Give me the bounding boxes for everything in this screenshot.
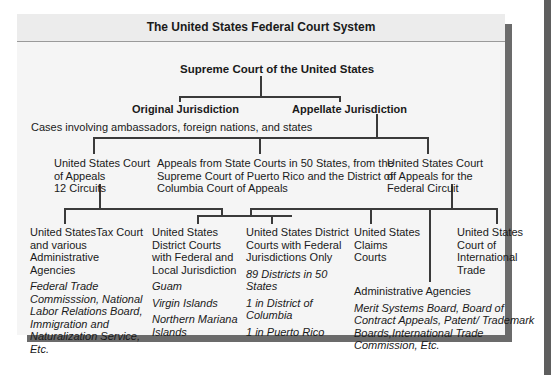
line: Local Jurisdiction [152, 264, 238, 277]
line: of Appeals [54, 170, 150, 183]
line: Agencies [30, 264, 143, 277]
line: Court of [457, 239, 523, 252]
line: 1 in Puerto Rico [246, 326, 349, 339]
line: Courts [354, 251, 420, 264]
line: Trade [457, 264, 523, 277]
connector-tax-court [64, 208, 66, 224]
connector-original [179, 96, 181, 102]
line: Commission, Etc. [354, 339, 534, 352]
line: Supreme Court of Puerto Rico and the Dis… [157, 170, 394, 183]
connector-federal-circuit [427, 137, 429, 154]
connector-appellate [339, 96, 341, 102]
line: Columbia Court of Appeals [157, 182, 394, 195]
connector-district-federal [271, 215, 273, 224]
connector-state [259, 137, 261, 154]
supreme-court-label: Supreme Court of the United States [180, 63, 374, 76]
tax-court-node: United StatesTax Court and various Admin… [30, 226, 143, 355]
line: Administrative [30, 251, 143, 264]
line: States [246, 280, 349, 293]
connector-fedcircuit-bar [250, 208, 498, 210]
administrative-agencies-node: Administrative Agencies Merit Systems Bo… [354, 285, 534, 352]
page-edge-strip [544, 0, 551, 375]
line: United States [457, 226, 523, 239]
international-trade-node: United States Court of International Tra… [457, 226, 523, 276]
line: Virgin Islands [152, 297, 238, 310]
line: District Courts [152, 239, 238, 252]
connector-circuit-bar [64, 208, 223, 210]
line: Merit Systems Board, Board of [354, 302, 534, 315]
line: 1 in District of [246, 297, 349, 310]
line: Appeals from State Courts in 50 States, … [157, 157, 394, 170]
connector-district-bar [197, 215, 292, 217]
connector-admin-agencies [429, 208, 431, 282]
line: United States Court [54, 157, 150, 170]
line: 89 Districts in 50 [246, 268, 349, 281]
line: United States Court [387, 157, 483, 170]
connector-appellate-down [376, 114, 378, 138]
line: of Appeals for the [387, 170, 483, 183]
line: and various [30, 239, 143, 252]
connector-circuit [93, 137, 95, 154]
line: Jurisdictions Only [246, 251, 349, 264]
original-jurisdiction-note: Cases involving ambassadors, foreign nat… [31, 121, 312, 134]
district-federal-only-node: United States District Courts with Feder… [246, 226, 349, 338]
line: Columbia [246, 309, 349, 322]
line: Administrative Agencies [354, 285, 534, 298]
line: Federal Trade [30, 280, 143, 293]
connector-jurisdiction-bar [179, 96, 341, 98]
connector-district-local [197, 215, 199, 224]
line: Federal Circuit [387, 182, 483, 195]
connector-supreme-down [260, 76, 262, 97]
line: Naturalization Service, [30, 330, 143, 343]
diagram-title: The United States Federal Court System [17, 20, 505, 34]
line: with Federal and [152, 251, 238, 264]
line: Immigration and [30, 318, 143, 331]
line: Northern Mariana [152, 313, 238, 326]
connector-claims [370, 208, 372, 224]
original-jurisdiction-label: Original Jurisdiction [132, 103, 239, 116]
line: Commisssion, National [30, 293, 143, 306]
connector-fed-to-district [250, 208, 252, 217]
diagram-header: The United States Federal Court System [17, 14, 505, 42]
line: Islands [152, 326, 238, 339]
line: United States [152, 226, 238, 239]
district-federal-local-node: United States District Courts with Feder… [152, 226, 238, 338]
claims-courts-node: United States Claims Courts [354, 226, 420, 264]
connector-appeals-bar [93, 137, 429, 139]
line: Boards,International Trade [354, 327, 534, 340]
line: Contract Appeals, Patent/ Trademark [354, 314, 534, 327]
circuit-court-node: United States Court of Appeals 12 Circui… [54, 157, 150, 195]
line: International [457, 251, 523, 264]
line: United States District [246, 226, 349, 239]
connector-intl-trade [496, 208, 498, 224]
line: Guam [152, 280, 238, 293]
state-appeals-node: Appeals from State Courts in 50 States, … [157, 157, 394, 195]
line: 12 Circuits [54, 182, 150, 195]
appellate-jurisdiction-label: Appellate Jurisdiction [292, 103, 407, 116]
line: Courts with Federal [246, 239, 349, 252]
line: United StatesTax Court [30, 226, 143, 239]
line: Claims [354, 239, 420, 252]
line: United States [354, 226, 420, 239]
line: Labor Relations Board, [30, 305, 143, 318]
line: Etc. [30, 343, 143, 356]
federal-circuit-node: United States Court of Appeals for the F… [387, 157, 483, 195]
